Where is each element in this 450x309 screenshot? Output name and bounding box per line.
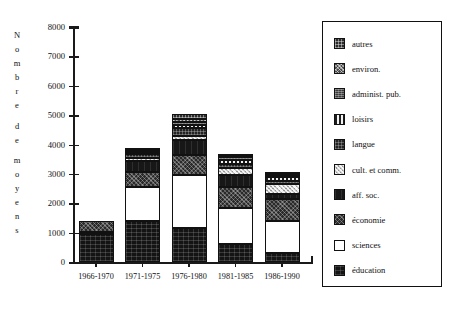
bar-segment-langue[interactable] <box>125 154 160 158</box>
bar-segment--conomie[interactable] <box>125 172 160 187</box>
bar-segment-cult-et-comm-[interactable] <box>125 158 160 160</box>
bar-segment-loisirs[interactable] <box>172 125 207 129</box>
bar-segment-autres[interactable] <box>265 172 300 174</box>
y-axis-title-char: o <box>15 42 19 56</box>
legend-swatch-icon <box>334 265 345 276</box>
legend-item[interactable]: environ. <box>323 56 441 81</box>
y-axis-title-char: b <box>15 70 19 84</box>
y-tick <box>69 203 79 205</box>
legend: autresenviron.administ. pub.loisirslangu… <box>322 21 442 287</box>
x-tick-label: 1981-1985 <box>218 272 253 281</box>
bar-segment-sciences[interactable] <box>125 187 160 221</box>
bar-segment-aff-soc-[interactable] <box>172 140 207 155</box>
bar-1976-1980[interactable] <box>172 114 207 262</box>
bar-segment-administ-pub-[interactable] <box>172 122 207 125</box>
legend-swatch-icon <box>334 164 345 175</box>
y-tick <box>69 174 79 176</box>
bar-segment-cult-et-comm-[interactable] <box>218 168 253 175</box>
bar-segment-environ-[interactable] <box>172 119 207 121</box>
y-tick-label: 6000 <box>48 81 65 91</box>
y-tick-label: 8000 <box>48 22 65 32</box>
y-tick-label: 4000 <box>48 140 65 150</box>
y-axis-title-char: n <box>15 209 19 223</box>
y-tick <box>69 27 79 29</box>
bar-segment-langue[interactable] <box>265 181 300 184</box>
bar-segment--ducation[interactable] <box>265 253 300 262</box>
legend-swatch-icon <box>334 63 345 74</box>
legend-swatch-icon <box>334 189 345 200</box>
y-tick <box>69 86 79 88</box>
legend-item[interactable]: aff. soc. <box>323 182 441 207</box>
legend-item[interactable]: langue <box>323 132 441 157</box>
bar-segment--ducation[interactable] <box>218 244 253 262</box>
bar-segment-aff-soc-[interactable] <box>218 175 253 187</box>
legend-item-label: loisirs <box>352 114 373 124</box>
bar-1981-1985[interactable] <box>218 154 253 262</box>
bar-segment--conomie[interactable] <box>218 187 253 208</box>
bar-1966-1970[interactable] <box>79 221 114 262</box>
y-axis-title-char: e <box>15 195 19 209</box>
bar-segment-sciences[interactable] <box>79 232 114 234</box>
legend-swatch-icon <box>334 88 345 99</box>
legend-item[interactable]: loisirs <box>323 107 441 132</box>
bar-segment-aff-soc-[interactable] <box>125 161 160 173</box>
bar-segment-sciences[interactable] <box>172 175 207 228</box>
x-tick-label: 1971-1975 <box>125 272 160 281</box>
bar-segment-loisirs[interactable] <box>218 160 253 164</box>
y-axis-title: Nombredemoyens <box>8 28 26 237</box>
x-tick-label: 1976-1980 <box>171 272 206 281</box>
bar-segment--ducation[interactable] <box>125 221 160 262</box>
bar-segment-autres[interactable] <box>218 154 253 156</box>
y-tick <box>69 262 79 264</box>
bar-segment-administ-pub-[interactable] <box>265 175 300 177</box>
y-tick-label: 0 <box>61 257 65 267</box>
bar-segment-langue[interactable] <box>218 164 253 168</box>
bar-segment-autres[interactable] <box>125 148 160 150</box>
legend-item[interactable]: économie <box>323 207 441 232</box>
bar-segment-autres[interactable] <box>172 114 207 119</box>
bar-segment--conomie[interactable] <box>172 155 207 176</box>
y-axis-title-char: m <box>14 153 21 167</box>
x-tick-label: 1986-1990 <box>264 272 299 281</box>
legend-item[interactable]: éducation <box>323 258 441 283</box>
y-tick <box>69 233 79 235</box>
legend-item[interactable]: administ. pub. <box>323 81 441 106</box>
legend-swatch-icon <box>334 114 345 125</box>
bar-segment-environ-[interactable] <box>218 155 253 157</box>
y-tick <box>69 115 79 117</box>
y-axis-title-char: N <box>14 28 20 42</box>
bar-segment-sciences[interactable] <box>265 221 300 253</box>
bar-segment-langue[interactable] <box>172 128 207 135</box>
chart-figure: Nombredemoyens 0100020003000400050006000… <box>0 0 450 309</box>
y-axis-title-char: r <box>16 84 19 98</box>
bar-1971-1975[interactable] <box>125 148 160 262</box>
legend-item[interactable]: autres <box>323 31 441 56</box>
y-axis-title-char: y <box>15 181 19 195</box>
bar-segment-sciences[interactable] <box>218 208 253 245</box>
legend-item[interactable]: sciences <box>323 233 441 258</box>
bar-segment-loisirs[interactable] <box>265 177 300 181</box>
legend-item-label: aff. soc. <box>352 190 379 200</box>
legend-item-label: environ. <box>352 64 380 74</box>
bar-segment--conomie[interactable] <box>79 221 114 232</box>
x-axis-line <box>73 262 313 264</box>
x-tick-label: 1966-1970 <box>78 272 113 281</box>
bar-segment-loisirs[interactable] <box>125 152 160 154</box>
legend-item-label: cult. et comm. <box>352 165 401 175</box>
bar-segment-cult-et-comm-[interactable] <box>265 184 300 194</box>
bar-segment--ducation[interactable] <box>172 228 207 262</box>
legend-item-label: sciences <box>352 240 381 250</box>
y-axis-title-char: e <box>15 98 19 112</box>
y-axis-title-char: s <box>15 223 18 237</box>
y-tick <box>69 145 79 147</box>
legend-item[interactable]: cult. et comm. <box>323 157 441 182</box>
bar-1986-1990[interactable] <box>265 173 300 262</box>
bar-segment-cult-et-comm-[interactable] <box>172 136 207 140</box>
bar-segment-administ-pub-[interactable] <box>125 150 160 152</box>
bar-segment--ducation[interactable] <box>79 234 114 262</box>
y-tick-label: 1000 <box>48 228 65 238</box>
bar-segment-aff-soc-[interactable] <box>265 194 300 198</box>
bar-segment--conomie[interactable] <box>265 199 300 221</box>
bar-segment-administ-pub-[interactable] <box>218 157 253 159</box>
y-axis-title-char: o <box>15 167 19 181</box>
